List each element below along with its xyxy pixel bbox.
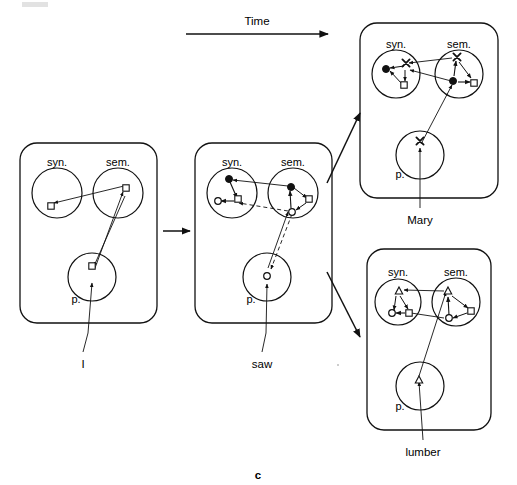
panel-3-node-sem-dot xyxy=(450,78,457,85)
scan-speck xyxy=(337,364,339,366)
figure-root: Time syn. sem. p. I syn. s xyxy=(0,0,517,485)
panel-3-node-sem-sq xyxy=(471,80,477,86)
panel-4-node-syn-circ xyxy=(389,310,396,317)
panel-3-node-syn-dot xyxy=(383,66,390,73)
panel-3-frame xyxy=(360,23,498,198)
panel-3-p-label: p. xyxy=(395,168,404,180)
panel-1-syn-label: syn. xyxy=(47,156,67,168)
panel-4-node-sem-circ xyxy=(446,315,453,322)
panel-4-node-syn-sq xyxy=(406,310,412,316)
diagram-canvas: Time syn. sem. p. I syn. s xyxy=(0,0,517,485)
scan-artifact xyxy=(22,2,48,7)
panel-4-syn-label: syn. xyxy=(388,266,408,278)
panel-2-frame xyxy=(195,143,332,323)
panel-3-syn-label: syn. xyxy=(386,38,406,50)
time-axis-label: Time xyxy=(244,15,269,27)
panel-1-sem-label: sem. xyxy=(106,156,130,168)
panel-1-node-syn-sq xyxy=(48,203,54,209)
panel-2-syn-label: syn. xyxy=(222,156,242,168)
panel-3-node-syn-sq xyxy=(401,82,407,88)
panel-3[interactable]: syn. sem. p. xyxy=(360,23,498,226)
panel-4-node-sem-sq xyxy=(468,308,474,314)
panel-1[interactable]: syn. sem. p. I xyxy=(20,143,157,370)
panel-4-word-label: lumber xyxy=(405,446,440,458)
panel-2-node-syn-circ xyxy=(215,198,222,205)
panel-2-sem-label: sem. xyxy=(281,156,305,168)
panel-2-node-sem-dot xyxy=(288,184,295,191)
panel-3-sem-label: sem. xyxy=(447,38,471,50)
panel-2-node-syn-sq xyxy=(235,196,241,202)
panel-1-node-sem-sq xyxy=(123,185,129,191)
panel-4-frame xyxy=(367,249,491,430)
panel-4-sem-label: sem. xyxy=(444,266,468,278)
panel-2-node-sem-sq xyxy=(306,196,312,202)
panel-4[interactable]: syn. sem. p. xyxy=(367,249,491,458)
panel-3-word-label: Mary xyxy=(407,214,433,226)
panel-2-word-label: saw xyxy=(252,358,273,370)
panel-2[interactable]: syn. sem. p. xyxy=(195,143,332,370)
transition-2-to-3-arrow xyxy=(327,113,360,183)
panel-2-node-sem-circ xyxy=(289,209,296,216)
panel-2-node-p-circ xyxy=(264,273,271,280)
panel-1-frame xyxy=(20,143,157,323)
panel-2-word-stem xyxy=(262,333,266,352)
panel-2-node-syn-dot xyxy=(226,176,233,183)
panel-1-word-label: I xyxy=(81,358,84,370)
panel-1-word-stem xyxy=(83,333,88,352)
panel-4-p-label: p. xyxy=(395,400,404,412)
time-axis: Time xyxy=(186,15,328,34)
figure-caption: c xyxy=(255,469,262,481)
panel-1-node-p-sq xyxy=(89,263,95,269)
